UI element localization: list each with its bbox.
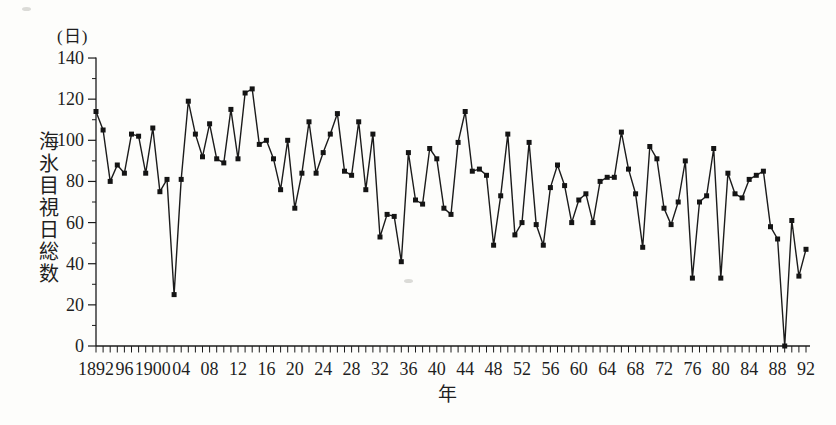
- y-tick-label: 40: [66, 254, 84, 274]
- data-point: [129, 132, 134, 137]
- data-point: [299, 171, 304, 176]
- x-tick-label: 20: [286, 359, 304, 379]
- y-axis-ticks: 020406080100120140: [57, 48, 96, 356]
- data-point: [193, 132, 198, 137]
- data-point: [392, 214, 397, 219]
- data-point: [725, 171, 730, 176]
- data-point: [186, 99, 191, 104]
- x-axis-title: 年: [438, 379, 457, 406]
- data-point: [115, 163, 120, 168]
- data-point: [385, 212, 390, 217]
- data-point: [512, 232, 517, 237]
- y-tick-label: 60: [66, 213, 84, 233]
- data-point: [491, 243, 496, 248]
- data-point: [271, 156, 276, 161]
- x-tick-label: 24: [314, 359, 332, 379]
- data-point: [292, 206, 297, 211]
- data-point: [697, 200, 702, 205]
- data-point: [789, 218, 794, 223]
- x-tick-label: 80: [712, 359, 730, 379]
- data-point: [143, 171, 148, 176]
- x-tick-label: 96: [115, 359, 133, 379]
- data-point: [733, 191, 738, 196]
- data-point: [626, 167, 631, 172]
- x-tick-label: 12: [229, 359, 247, 379]
- data-point: [654, 156, 659, 161]
- x-tick-label: 64: [598, 359, 616, 379]
- data-point: [796, 274, 801, 279]
- data-point: [406, 150, 411, 155]
- data-point: [761, 169, 766, 174]
- data-point: [669, 222, 674, 227]
- data-point: [250, 86, 255, 91]
- data-point: [101, 128, 106, 133]
- data-points: [94, 86, 809, 348]
- data-point: [484, 173, 489, 178]
- data-point: [690, 276, 695, 281]
- data-point: [328, 132, 333, 137]
- y-tick-label: 20: [66, 295, 84, 315]
- x-tick-label: 40: [428, 359, 446, 379]
- data-point: [356, 119, 361, 124]
- x-tick-label: 1892: [78, 359, 114, 379]
- data-line: [96, 89, 806, 346]
- data-point: [420, 202, 425, 207]
- x-tick-label: 04: [172, 359, 190, 379]
- data-point: [314, 171, 319, 176]
- data-point: [711, 146, 716, 151]
- x-tick-label: 36: [399, 359, 417, 379]
- x-tick-label: 88: [769, 359, 787, 379]
- data-point: [278, 187, 283, 192]
- scan-artifact: [404, 279, 413, 283]
- data-point: [662, 206, 667, 211]
- data-point: [434, 156, 439, 161]
- data-point: [562, 183, 567, 188]
- data-point: [782, 344, 787, 349]
- data-point: [747, 177, 752, 182]
- data-point: [150, 126, 155, 131]
- data-point: [498, 193, 503, 198]
- data-point: [576, 198, 581, 203]
- data-point: [534, 222, 539, 227]
- data-point: [640, 245, 645, 250]
- data-point: [569, 220, 574, 225]
- x-tick-label: 52: [513, 359, 531, 379]
- data-point: [541, 243, 546, 248]
- data-point: [804, 247, 809, 252]
- data-point: [236, 156, 241, 161]
- data-point: [740, 195, 745, 200]
- data-point: [441, 206, 446, 211]
- data-point: [321, 150, 326, 155]
- x-tick-label: 84: [740, 359, 758, 379]
- x-axis-ticks: 1892961900040812162024283236404448525660…: [78, 346, 815, 379]
- data-point: [555, 163, 560, 168]
- data-point: [754, 173, 759, 178]
- x-tick-label: 28: [343, 359, 361, 379]
- data-point: [179, 177, 184, 182]
- data-point: [619, 130, 624, 135]
- x-tick-label: 92: [797, 359, 815, 379]
- data-point: [207, 121, 212, 126]
- x-tick-label: 68: [627, 359, 645, 379]
- data-point: [264, 138, 269, 143]
- data-point: [214, 156, 219, 161]
- scan-artifact: [22, 7, 31, 11]
- data-point: [122, 171, 127, 176]
- data-point: [583, 191, 588, 196]
- data-point: [548, 185, 553, 190]
- data-point: [683, 158, 688, 163]
- y-tick-label: 80: [66, 171, 84, 191]
- x-tick-label: 48: [485, 359, 503, 379]
- data-point: [243, 91, 248, 96]
- data-point: [363, 187, 368, 192]
- data-point: [157, 189, 162, 194]
- data-point: [165, 177, 170, 182]
- data-point: [378, 235, 383, 240]
- data-point: [477, 167, 482, 172]
- data-point: [463, 109, 468, 114]
- data-point: [520, 220, 525, 225]
- axes: [96, 58, 810, 346]
- data-point: [676, 200, 681, 205]
- data-point: [257, 142, 262, 147]
- data-point: [633, 191, 638, 196]
